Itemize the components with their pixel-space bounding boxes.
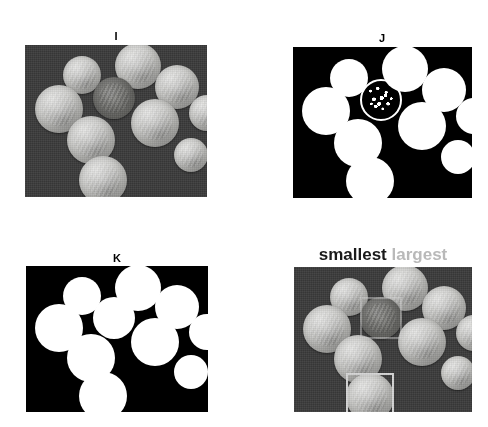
figure-coin-detection-panels: I J K: [0, 0, 488, 427]
coin-relief: [335, 283, 362, 310]
coin-relief: [405, 325, 440, 360]
panel-K-image: [26, 266, 208, 412]
coin-relief: [179, 143, 204, 168]
coin-relief: [428, 292, 460, 324]
bbox-largest: [346, 373, 394, 412]
coin-relief: [341, 342, 376, 377]
panel-J-image: [293, 47, 472, 198]
coin-relief: [138, 106, 173, 141]
noise-speckle: [365, 84, 397, 116]
panel-L-image: [294, 267, 472, 412]
coin-relief: [446, 361, 471, 386]
coin-mask: [131, 318, 179, 366]
coin-relief: [99, 83, 129, 113]
coin-mask: [174, 355, 208, 389]
coin: [131, 99, 179, 147]
coin: [441, 356, 472, 390]
coin-relief: [42, 92, 77, 127]
coin-relief: [68, 61, 95, 88]
coin-relief: [194, 100, 207, 126]
coin-mask: [441, 140, 472, 174]
coin-relief: [74, 123, 109, 158]
bbox-smallest: [360, 297, 402, 339]
panel-label-K: K: [113, 253, 121, 264]
coin-mask: [79, 372, 127, 412]
coin: [79, 156, 127, 197]
panel-label-J: J: [379, 33, 385, 44]
caption-largest: largest: [392, 245, 448, 264]
coin-mask: [93, 297, 135, 339]
coin-relief: [121, 49, 154, 82]
coin: [93, 77, 135, 119]
panel-L-caption: smallest largest: [319, 246, 448, 263]
panel-I-image: [25, 45, 207, 197]
coin-relief: [86, 163, 121, 197]
coin-mask: [398, 102, 446, 150]
coin-relief: [161, 71, 193, 103]
coin-mask-noisy: [360, 79, 402, 121]
coin-relief: [461, 320, 472, 346]
panel-label-I: I: [114, 31, 117, 42]
coin: [174, 138, 207, 172]
coin-relief: [310, 312, 345, 347]
coin-mask: [346, 157, 394, 198]
caption-smallest: smallest: [319, 245, 387, 264]
coin: [398, 318, 446, 366]
